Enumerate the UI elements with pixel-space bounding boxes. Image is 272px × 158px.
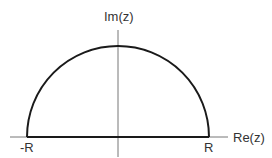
left-endpoint-label: -R xyxy=(20,140,34,155)
contour-diagram: Im(z) Re(z) -R R xyxy=(0,0,272,158)
right-endpoint-label: R xyxy=(204,140,213,155)
real-axis-label: Re(z) xyxy=(233,130,265,145)
imaginary-axis-label: Im(z) xyxy=(104,9,134,24)
